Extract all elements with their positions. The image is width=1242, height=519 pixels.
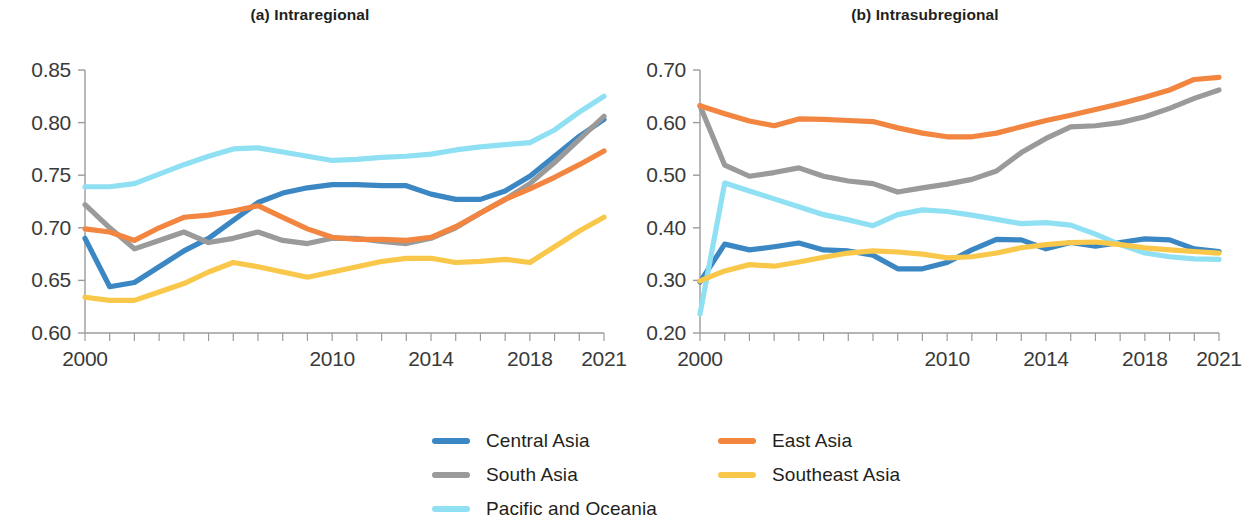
legend-swatch-icon (432, 438, 470, 444)
x-axis-tick-label: 2018 (1122, 347, 1168, 371)
y-axis-tick-label: 0.85 (0, 58, 71, 82)
y-axis-tick-label: 0.50 (615, 163, 686, 187)
x-axis-tick-label: 2010 (924, 347, 970, 371)
series-line-east-asia (85, 151, 604, 240)
chart-b-plot-area: 0.200.300.400.500.600.702000201020142018… (615, 0, 1235, 380)
legend-item-southeast-asia[interactable]: Southeast Asia (718, 462, 900, 488)
y-axis-tick-label: 0.40 (615, 216, 686, 240)
y-axis-tick-label: 0.80 (0, 111, 71, 135)
y-axis-tick-label: 0.65 (0, 268, 71, 292)
y-axis-tick-label: 0.30 (615, 268, 686, 292)
x-axis-tick-label: 2018 (507, 347, 553, 371)
y-axis-tick-label: 0.75 (0, 163, 71, 187)
y-axis-tick-label: 0.70 (0, 216, 71, 240)
series-line-southeast-asia (85, 217, 604, 300)
chart-a-svg (0, 0, 620, 380)
legend-swatch-icon (718, 438, 756, 444)
series-line-east-asia (700, 77, 1219, 136)
legend-swatch-icon (432, 506, 470, 512)
legend-label: Central Asia (486, 430, 590, 452)
legend-item-central-asia[interactable]: Central Asia (432, 428, 590, 454)
legend-swatch-icon (718, 472, 756, 478)
x-axis-tick-label: 2000 (62, 347, 108, 371)
chart-legend: Central AsiaSouth AsiaPacific and Oceani… (0, 410, 1235, 513)
x-axis-tick-label: 2010 (309, 347, 355, 371)
legend-label: Southeast Asia (772, 464, 900, 486)
x-axis-tick-label: 2000 (677, 347, 723, 371)
legend-label: Pacific and Oceania (486, 498, 657, 519)
y-axis-tick-label: 0.60 (615, 111, 686, 135)
series-line-pacific-and-oceania (85, 96, 604, 186)
legend-item-pacific-and-oceania[interactable]: Pacific and Oceania (432, 496, 657, 519)
legend-swatch-icon (432, 472, 470, 478)
y-axis-tick-label: 0.20 (615, 321, 686, 345)
chart-panel-a: (a) Intraregional 0.600.650.700.750.800.… (0, 0, 620, 380)
chart-panel-b: (b) Intrasubregional 0.200.300.400.500.6… (615, 0, 1235, 380)
y-axis-tick-label: 0.70 (615, 58, 686, 82)
legend-label: South Asia (486, 464, 578, 486)
x-axis-tick-label: 2014 (1023, 347, 1069, 371)
y-axis-tick-label: 0.60 (0, 321, 71, 345)
legend-label: East Asia (772, 430, 852, 452)
x-axis-tick-label: 2021 (1196, 347, 1242, 371)
chart-a-plot-area: 0.600.650.700.750.800.852000201020142018… (0, 0, 620, 380)
chart-b-svg (615, 0, 1235, 380)
x-axis-tick-label: 2014 (408, 347, 454, 371)
legend-item-south-asia[interactable]: South Asia (432, 462, 578, 488)
series-line-south-asia (700, 90, 1219, 192)
legend-item-east-asia[interactable]: East Asia (718, 428, 852, 454)
